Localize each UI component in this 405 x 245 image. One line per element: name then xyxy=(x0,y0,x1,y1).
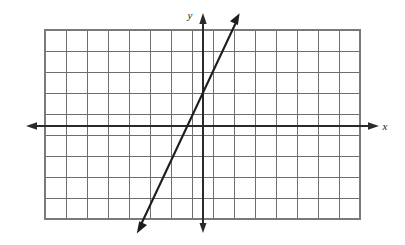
graph-figure: Coordinate plane with a graphed line xyxy=(0,0,405,245)
x-axis-right-arrow-icon xyxy=(368,122,379,130)
line-upper-arrow-icon xyxy=(230,13,240,25)
coordinate-plane-svg: x y xyxy=(0,0,405,245)
x-axis-label: x xyxy=(382,120,388,132)
y-axis-label: y xyxy=(187,9,193,21)
y-axis-top-arrow-icon xyxy=(199,13,206,24)
y-axis-bottom-arrow-icon xyxy=(200,223,207,233)
x-axis-left-arrow-icon xyxy=(26,122,37,130)
line-lower-arrow-icon xyxy=(137,221,147,233)
